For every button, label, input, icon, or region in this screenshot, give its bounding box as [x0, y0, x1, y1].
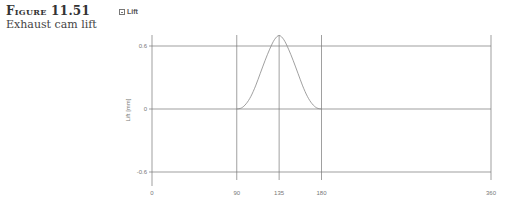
y-tick-label: 0.6	[139, 43, 148, 49]
x-tick-label: 135	[274, 190, 285, 196]
chart-grid	[149, 35, 491, 186]
y-tick-label: -0.6	[137, 169, 148, 175]
axis-tick-labels: 0.60-0.6090135180360	[137, 43, 497, 196]
x-tick-label: 0	[150, 190, 154, 196]
y-tick-label: 0	[144, 106, 148, 112]
x-tick-label: 90	[233, 190, 240, 196]
y-axis-label: Lift [mm]	[125, 98, 131, 121]
x-tick-label: 360	[486, 190, 497, 196]
lift-chart: 0.60-0.6090135180360 Lift [mm]	[0, 0, 526, 210]
x-tick-label: 180	[316, 190, 327, 196]
